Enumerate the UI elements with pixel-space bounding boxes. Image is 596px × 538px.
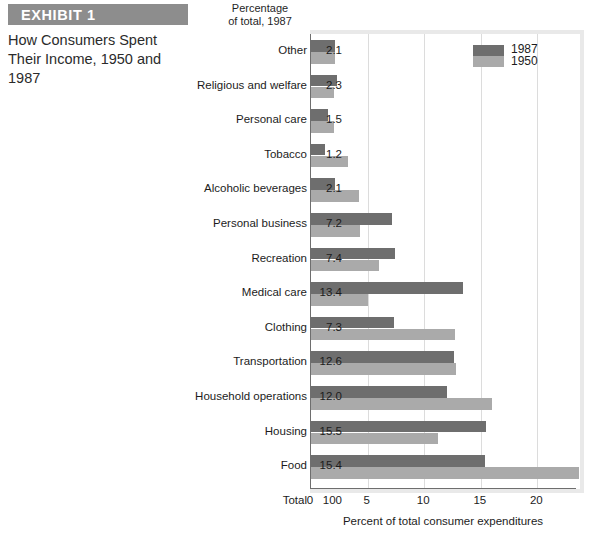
category-label-religious-and-welfare: Religious and welfare [122,79,307,91]
x-tick-20: 20 [524,494,548,506]
category-label-medical-care: Medical care [122,286,307,298]
category-value-transportation: 12.6 [312,355,342,367]
category-label-personal-care: Personal care [122,113,307,125]
exhibit-banner-label: EXHIBIT 1 [8,7,96,23]
category-label-total: Total [122,494,307,506]
category-value-housing: 15.5 [312,425,342,437]
category-label-housing: Housing [122,425,307,437]
chart-row: Alcoholic beverages2.1 [215,172,590,207]
category-value-other: 2.1 [312,44,342,56]
chart-row: Recreation7.4 [215,242,590,277]
category-label-food: Food [122,459,307,471]
chart-row: Personal business7.2 [215,207,590,242]
chart-row: Other2.1 [215,34,590,69]
x-tick-10: 10 [411,494,435,506]
category-value-clothing: 7.3 [312,321,342,333]
category-value-recreation: 7.4 [312,252,342,264]
chart-row: Food15.4 [215,449,590,484]
category-label-household-operations: Household operations [122,390,307,402]
exhibit-banner: EXHIBIT 1 [8,4,188,25]
category-value-food: 15.4 [312,459,342,471]
x-tick-15: 15 [468,494,492,506]
x-tick-0: 0 [298,494,322,506]
category-label-other: Other [122,44,307,56]
chart-row: Personal care1.5 [215,103,590,138]
chart-row: Transportation12.6 [215,345,590,380]
category-label-alcoholic-beverages: Alcoholic beverages [122,182,307,194]
category-value-alcoholic-beverages: 2.1 [312,182,342,194]
value-column-header-line1: Percentage [214,2,306,15]
chart-row: Tobacco1.2 [215,138,590,173]
chart-row: Housing15.5 [215,415,590,450]
category-value-personal-business: 7.2 [312,217,342,229]
value-column-header: Percentage of total, 1987 [214,2,306,28]
chart-row: Medical care13.4 [215,276,590,311]
chart-row: Clothing7.3 [215,311,590,346]
category-label-tobacco: Tobacco [122,148,307,160]
chart-row: Household operations12.0 [215,380,590,415]
chart-row: Religious and welfare2.3 [215,69,590,104]
category-label-transportation: Transportation [122,355,307,367]
value-column-header-line2: of total, 1987 [214,15,306,28]
category-value-medical-care: 13.4 [312,286,342,298]
category-label-recreation: Recreation [122,252,307,264]
x-tick-5: 5 [355,494,379,506]
category-value-religious-and-welfare: 2.3 [312,79,342,91]
bar-chart: 1987 1950 Percent of total consumer expe… [215,30,590,498]
category-value-household-operations: 12.0 [312,390,342,402]
category-value-personal-care: 1.5 [312,113,342,125]
category-label-clothing: Clothing [122,321,307,333]
category-label-personal-business: Personal business [122,217,307,229]
category-value-tobacco: 1.2 [312,148,342,160]
